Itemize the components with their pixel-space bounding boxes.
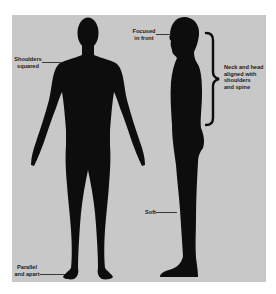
label-neck-head-aligned: Neck and head aligned with shoulders and…: [224, 64, 266, 90]
label-shoulders-squared: Shoulders squared: [13, 56, 43, 69]
posture-figures: [0, 0, 276, 294]
label-parallel-and-apart: Parallel and apart: [13, 264, 41, 277]
curly-bracket-icon: [206, 33, 219, 125]
knees-leader-line: [156, 212, 177, 213]
feet-leader-line: [40, 274, 65, 275]
front-figure-silhouette: [31, 18, 145, 280]
label-focused-in-front: Focused in front: [130, 28, 158, 41]
eyes-leader-line: [156, 34, 171, 35]
side-figure-silhouette: [160, 17, 204, 277]
shoulders-leader-line: [42, 62, 61, 63]
label-soft-knees: Soft: [145, 209, 157, 216]
